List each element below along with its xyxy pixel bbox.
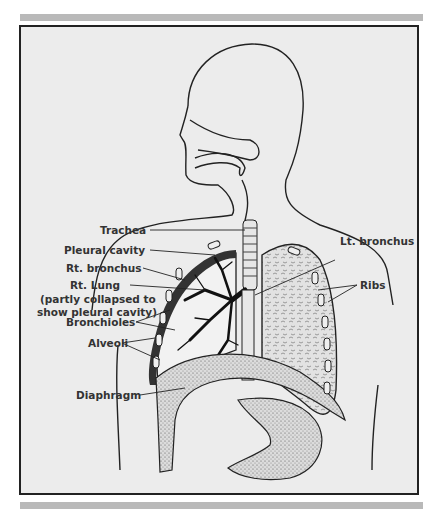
label-alveoli: Alveoli: [88, 337, 128, 349]
bottom-rule: [20, 502, 423, 509]
label-rt-lung-note-1: (partly collapsed to: [40, 293, 156, 305]
label-bronchioles: Bronchioles: [66, 316, 135, 328]
stomach: [228, 398, 322, 479]
label-diaphragm: Diaphragm: [76, 389, 141, 401]
label-trachea: Trachea: [100, 224, 146, 236]
label-pleural-cavity: Pleural cavity: [64, 244, 145, 256]
label-rt-bronchus: Rt. bronchus: [66, 262, 142, 274]
trachea-shape: [243, 220, 257, 290]
label-ribs: Ribs: [360, 279, 385, 291]
label-lt-bronchus: Lt. bronchus: [340, 235, 414, 247]
label-rt-lung: Rt. Lung: [70, 279, 120, 291]
